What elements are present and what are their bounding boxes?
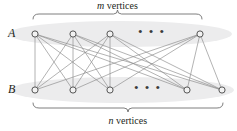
graph-vertex-a bbox=[70, 31, 76, 37]
bottom-bracket-label: n vertices bbox=[109, 116, 148, 126]
set-label-a: A bbox=[8, 27, 15, 39]
bipartite-graph-figure: A B m vertices n vertices • • • • • • bbox=[0, 0, 237, 131]
top-bracket-word: vertices bbox=[107, 0, 138, 11]
graph-canvas bbox=[0, 0, 237, 131]
graph-vertex-b bbox=[32, 87, 38, 93]
graph-vertex-b bbox=[107, 87, 113, 93]
graph-vertex-a bbox=[32, 31, 38, 37]
graph-vertex-b bbox=[219, 87, 225, 93]
ellipsis-row-a: • • • bbox=[138, 25, 166, 38]
ellipsis-row-b: • • • bbox=[134, 81, 162, 94]
top-bracket bbox=[33, 10, 202, 19]
set-label-b: B bbox=[8, 83, 15, 95]
bottom-bracket-word: vertices bbox=[116, 115, 147, 126]
graph-vertex-a bbox=[197, 31, 203, 37]
row-shade-b bbox=[10, 77, 234, 103]
graph-vertex-b bbox=[184, 87, 190, 93]
graph-vertex-a bbox=[107, 31, 113, 37]
bottom-bracket bbox=[33, 103, 223, 112]
top-bracket-variable: m bbox=[97, 0, 104, 11]
bottom-bracket-variable: n bbox=[109, 115, 114, 126]
graph-vertex-b bbox=[70, 87, 76, 93]
top-bracket-label: m vertices bbox=[97, 1, 138, 11]
